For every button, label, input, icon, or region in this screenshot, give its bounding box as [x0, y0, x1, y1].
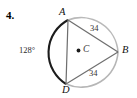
arc-da-dark	[49, 20, 68, 84]
chord-ad-line	[66, 20, 68, 84]
geometry-figure: 4. 128° A B D C 34 34	[0, 0, 137, 98]
chord-ab-measure-label: 34	[90, 24, 99, 33]
vertex-label-b: B	[122, 45, 128, 56]
problem-number: 4.	[6, 10, 14, 21]
center-point-dot	[77, 49, 81, 53]
vertex-label-a: A	[59, 7, 65, 18]
vertex-label-d: D	[62, 85, 70, 96]
center-label-c: C	[83, 45, 89, 55]
chord-db-measure-label: 34	[89, 69, 98, 78]
arc-measure-label: 128°	[19, 46, 35, 55]
